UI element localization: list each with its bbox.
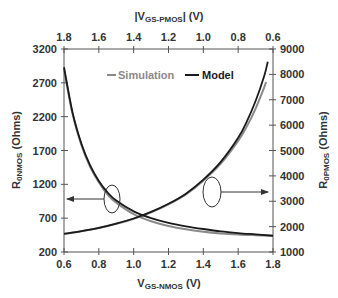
y-tick-label: 1700: [33, 145, 57, 157]
y-tick-label: 700: [39, 212, 57, 224]
x2-tick-label: 1.2: [161, 31, 176, 43]
y2-tick-label: 9000: [280, 43, 304, 55]
y-tick-label: 2200: [33, 111, 57, 123]
y2-tick-label: 6000: [280, 119, 304, 131]
y2-tick-label: 7000: [280, 94, 304, 106]
y2-tick-label: 3000: [280, 195, 304, 207]
y2-tick-label: 8000: [280, 68, 304, 80]
top-axis-title: |VGS-PMOS| (V): [135, 10, 204, 24]
x-tick-label: 1.4: [196, 258, 212, 270]
right-axis-title: R0PMOS (Ohms): [317, 111, 331, 189]
x2-tick-label: 0.6: [265, 31, 280, 43]
curves: [64, 62, 273, 236]
x2-tick-label: 1.0: [196, 31, 211, 43]
x-tick-label: 0.8: [91, 258, 106, 270]
annotations: [67, 177, 268, 213]
pmos-curve: [64, 82, 266, 234]
y-tick-label: 1200: [33, 178, 57, 190]
legend-simulation-label: Simulation: [118, 69, 175, 81]
pmos-curve: [64, 62, 268, 234]
y2-tick-label: 1000: [280, 246, 304, 258]
legend-model-label: Model: [202, 69, 234, 81]
x-tick-label: 1.8: [265, 258, 280, 270]
nmos-curve: [64, 69, 273, 235]
x-tick-label: 1.0: [126, 258, 141, 270]
x-tick-label: 1.2: [161, 258, 176, 270]
y2-tick-label: 4000: [280, 170, 304, 182]
left-axis-title: R0NMOS (Ohms): [10, 111, 24, 189]
legend: Simulation Model: [107, 69, 234, 81]
x-tick-label: 0.6: [56, 258, 71, 270]
x-tick-label: 1.6: [231, 258, 246, 270]
x2-tick-label: 0.8: [231, 31, 246, 43]
x2-tick-label: 1.6: [91, 31, 106, 43]
y2-tick-label: 2000: [280, 221, 304, 233]
right-ellipse: [203, 177, 221, 207]
x2-tick-label: 1.4: [126, 31, 142, 43]
bottom-axis-title: VGS-NMOS (V): [137, 277, 201, 291]
y-tick-label: 2700: [33, 77, 57, 89]
chart: 0.60.81.01.21.41.61.81.81.61.41.21.00.80…: [0, 0, 338, 298]
nmos-curve: [64, 67, 273, 235]
x2-tick-label: 1.8: [56, 31, 71, 43]
y-tick-label: 200: [39, 246, 57, 258]
y-tick-label: 3200: [33, 43, 57, 55]
y2-tick-label: 5000: [280, 145, 304, 157]
